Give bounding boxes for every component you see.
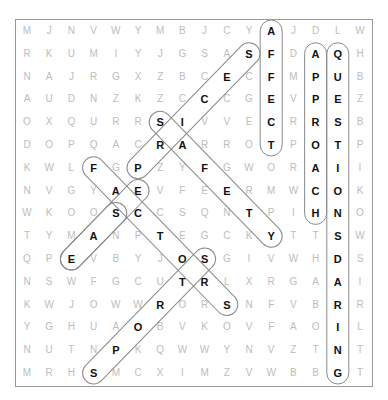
grid-cell[interactable]: N bbox=[16, 180, 38, 202]
grid-cell[interactable]: Q bbox=[16, 248, 38, 270]
grid-cell[interactable]: G bbox=[105, 271, 127, 293]
grid-cell[interactable]: U bbox=[38, 339, 60, 361]
grid-cell[interactable]: M bbox=[282, 66, 304, 88]
grid-cell[interactable]: T bbox=[282, 225, 304, 247]
grid-cell[interactable]: V bbox=[149, 180, 171, 202]
grid-cell[interactable]: P bbox=[260, 202, 282, 224]
grid-cell[interactable]: Y bbox=[171, 157, 193, 179]
grid-cell[interactable]: R bbox=[349, 294, 371, 316]
grid-cell[interactable]: O bbox=[327, 180, 349, 202]
grid-cell[interactable]: Z bbox=[282, 339, 304, 361]
grid-cell[interactable]: P bbox=[349, 134, 371, 156]
grid-cell[interactable]: C bbox=[194, 88, 216, 110]
grid-cell[interactable]: V bbox=[216, 111, 238, 133]
grid-cell[interactable]: C bbox=[238, 66, 260, 88]
grid-cell[interactable]: P bbox=[282, 134, 304, 156]
grid-cell[interactable]: A bbox=[16, 88, 38, 110]
grid-cell[interactable]: P bbox=[127, 225, 149, 247]
grid-cell[interactable]: O bbox=[260, 157, 282, 179]
grid-cell[interactable]: T bbox=[16, 225, 38, 247]
grid-cell[interactable]: U bbox=[83, 316, 105, 338]
grid-cell[interactable]: Q bbox=[327, 43, 349, 65]
grid-cell[interactable]: E bbox=[327, 88, 349, 110]
grid-cell[interactable]: K bbox=[238, 225, 260, 247]
grid-cell[interactable]: U bbox=[38, 88, 60, 110]
grid-cell[interactable]: Y bbox=[238, 20, 260, 42]
grid-cell[interactable]: F bbox=[171, 180, 193, 202]
grid-cell[interactable]: Z bbox=[149, 88, 171, 110]
grid-cell[interactable]: M bbox=[83, 43, 105, 65]
grid-cell[interactable]: O bbox=[216, 316, 238, 338]
grid-cell[interactable]: V bbox=[260, 248, 282, 270]
grid-cell[interactable]: S bbox=[349, 248, 371, 270]
grid-cell[interactable]: W bbox=[16, 202, 38, 224]
grid-cell[interactable]: Z bbox=[149, 157, 171, 179]
grid-cell[interactable]: R bbox=[238, 180, 260, 202]
grid-cell[interactable]: C bbox=[127, 271, 149, 293]
grid-cell[interactable]: W bbox=[38, 157, 60, 179]
grid-cell[interactable]: S bbox=[327, 111, 349, 133]
grid-cell[interactable]: A bbox=[305, 43, 327, 65]
grid-cell[interactable]: G bbox=[105, 66, 127, 88]
grid-cell[interactable]: R bbox=[149, 134, 171, 156]
grid-cell[interactable]: I bbox=[327, 316, 349, 338]
grid-cell[interactable]: K bbox=[16, 294, 38, 316]
grid-cell[interactable]: L bbox=[216, 271, 238, 293]
grid-cell[interactable]: B bbox=[171, 20, 193, 42]
grid-cell[interactable]: F bbox=[194, 157, 216, 179]
grid-cell[interactable]: A bbox=[260, 20, 282, 42]
grid-cell[interactable]: W bbox=[105, 20, 127, 42]
grid-cell[interactable]: H bbox=[305, 202, 327, 224]
grid-cell[interactable]: U bbox=[327, 66, 349, 88]
grid-cell[interactable]: V bbox=[38, 180, 60, 202]
grid-cell[interactable]: V bbox=[260, 339, 282, 361]
grid-cell[interactable]: R bbox=[260, 271, 282, 293]
grid-cell[interactable]: V bbox=[282, 88, 304, 110]
grid-cell[interactable]: N bbox=[16, 339, 38, 361]
grid-cell[interactable]: P bbox=[127, 157, 149, 179]
grid-cell[interactable]: N bbox=[16, 271, 38, 293]
grid-cell[interactable]: R bbox=[305, 111, 327, 133]
grid-cell[interactable]: U bbox=[83, 111, 105, 133]
grid-cell[interactable]: G bbox=[216, 248, 238, 270]
grid-cell[interactable]: Y bbox=[38, 225, 60, 247]
grid-cell[interactable]: N bbox=[327, 339, 349, 361]
grid-cell[interactable]: G bbox=[38, 316, 60, 338]
grid-cell[interactable]: V bbox=[282, 294, 304, 316]
grid-cell[interactable]: H bbox=[349, 43, 371, 65]
grid-cell[interactable]: C bbox=[260, 111, 282, 133]
grid-cell[interactable]: K bbox=[127, 339, 149, 361]
grid-cell[interactable]: F bbox=[260, 66, 282, 88]
grid-cell[interactable]: C bbox=[171, 88, 193, 110]
grid-cell[interactable]: K bbox=[38, 43, 60, 65]
grid-cell[interactable]: V bbox=[238, 316, 260, 338]
grid-cell[interactable]: T bbox=[349, 339, 371, 361]
grid-cell[interactable]: O bbox=[171, 294, 193, 316]
grid-cell[interactable]: M bbox=[260, 180, 282, 202]
grid-cell[interactable]: C bbox=[305, 180, 327, 202]
grid-cell[interactable]: N bbox=[216, 202, 238, 224]
grid-cell[interactable]: E bbox=[171, 225, 193, 247]
grid-cell[interactable]: F bbox=[83, 157, 105, 179]
grid-cell[interactable]: N bbox=[60, 20, 82, 42]
grid-cell[interactable]: D bbox=[305, 20, 327, 42]
grid-cell[interactable]: Q bbox=[194, 202, 216, 224]
grid-cell[interactable]: R bbox=[194, 134, 216, 156]
grid-cell[interactable]: W bbox=[105, 294, 127, 316]
grid-cell[interactable]: Q bbox=[149, 339, 171, 361]
grid-cell[interactable]: R bbox=[105, 111, 127, 133]
grid-cell[interactable]: B bbox=[149, 316, 171, 338]
grid-cell[interactable]: N bbox=[327, 202, 349, 224]
grid-cell[interactable]: O bbox=[305, 316, 327, 338]
grid-cell[interactable]: W bbox=[349, 225, 371, 247]
grid-cell[interactable]: D bbox=[60, 88, 82, 110]
grid-cell[interactable]: T bbox=[171, 271, 193, 293]
grid-cell[interactable]: D bbox=[327, 248, 349, 270]
grid-cell[interactable]: V bbox=[83, 248, 105, 270]
grid-cell[interactable]: C bbox=[194, 66, 216, 88]
grid-cell[interactable]: I bbox=[238, 248, 260, 270]
grid-cell[interactable]: T bbox=[327, 134, 349, 156]
grid-cell[interactable]: O bbox=[60, 202, 82, 224]
grid-cell[interactable]: I bbox=[171, 362, 193, 384]
grid-cell[interactable]: Y bbox=[216, 339, 238, 361]
